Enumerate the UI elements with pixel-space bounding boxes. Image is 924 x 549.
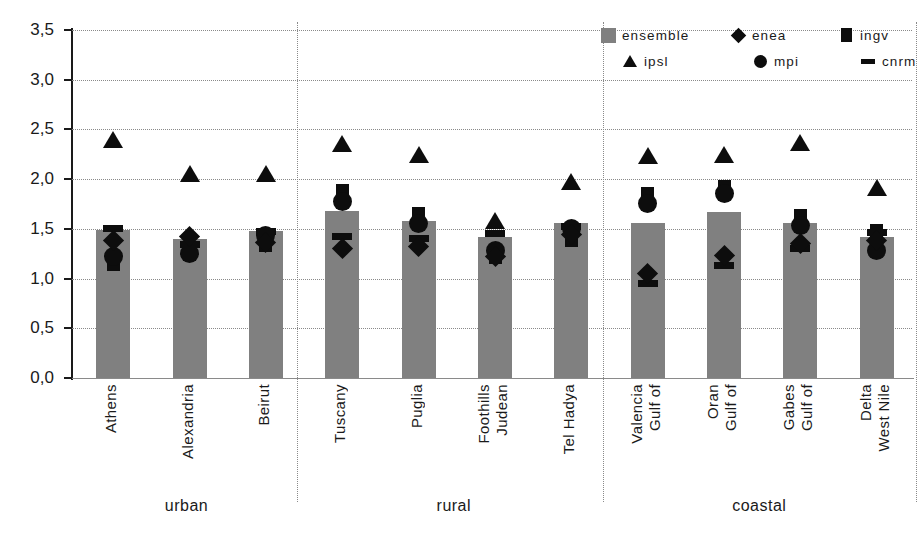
x-axis-label: Gulf ofGabes xyxy=(780,384,820,496)
mpi-circle-marker xyxy=(638,194,657,213)
ipsl-triangle-marker xyxy=(790,134,810,151)
ipsl-triangle-marker xyxy=(256,165,276,182)
ipsl-triangle-marker xyxy=(867,179,887,196)
ipsl-triangle-marker xyxy=(332,135,352,152)
x-axis-label-line: Gulf of xyxy=(798,384,815,431)
square-icon xyxy=(838,28,854,42)
gridline xyxy=(72,80,912,81)
x-axis-label-line: Beirut xyxy=(255,384,272,426)
mpi-circle-marker xyxy=(333,192,352,211)
x-axis-label: Puglia xyxy=(408,384,430,496)
legend-label-mpi: mpi xyxy=(774,54,799,69)
diamond-icon xyxy=(730,30,746,41)
ipsl-triangle-marker xyxy=(180,165,200,182)
legend-label-ensemble: ensemble xyxy=(622,28,689,43)
bar xyxy=(631,223,665,378)
x-axis-label-line: Tel Hadya xyxy=(560,384,577,454)
ipsl-triangle-marker xyxy=(103,131,123,148)
ipsl-triangle-marker xyxy=(714,146,734,163)
y-axis-label: 0,5 xyxy=(8,319,54,336)
legend-item-ensemble: ensemble xyxy=(600,28,730,43)
x-axis-label: Beirut xyxy=(255,384,277,496)
x-axis-label: Athens xyxy=(102,384,124,496)
legend-label-ipsl: ipsl xyxy=(644,54,669,69)
legend-row-1: ensemble enea ingv xyxy=(600,22,920,48)
group-separator xyxy=(297,22,298,502)
x-axis-label-line: Gabes xyxy=(780,384,797,430)
y-axis-label: 3,5 xyxy=(8,21,54,38)
group-separator xyxy=(916,22,917,502)
x-axis-label: JudeanFoothills xyxy=(475,384,515,496)
x-axis-label-line: Gulf of xyxy=(722,384,739,431)
y-axis-label: 2,5 xyxy=(8,120,54,137)
x-axis-label-line: Puglia xyxy=(408,384,425,428)
mpi-circle-marker xyxy=(715,184,734,203)
bar xyxy=(249,231,283,378)
bar-chart: 0,00,51,01,52,02,53,03,5 AthensAlexandri… xyxy=(0,0,924,549)
x-axis-label: Gulf ofOran xyxy=(704,384,744,496)
x-axis-label-line: Tuscany xyxy=(331,384,348,443)
legend-item-enea: enea xyxy=(730,28,838,43)
group-separator xyxy=(603,22,604,502)
circle-icon xyxy=(752,55,768,68)
x-axis-label: West NileDelta xyxy=(857,384,897,496)
x-axis-label-line: Oran xyxy=(704,384,721,419)
x-axis-label-line: West Nile xyxy=(875,384,892,452)
x-axis-label-line: Delta xyxy=(857,384,874,421)
y-axis-label: 3,0 xyxy=(8,71,54,88)
cnrm-dash-marker xyxy=(485,230,505,237)
plot-area xyxy=(72,30,912,378)
legend-label-ingv: ingv xyxy=(860,28,889,43)
x-axis-label-line: Judean xyxy=(493,384,510,436)
group-label: coastal xyxy=(607,497,912,515)
x-axis-label: Alexandria xyxy=(179,384,201,496)
ipsl-triangle-marker xyxy=(485,212,505,229)
legend-item-ingv: ingv xyxy=(838,28,889,43)
ipsl-triangle-marker xyxy=(561,173,581,190)
legend-label-cnrm: cnrm xyxy=(882,54,916,69)
x-axis-label-line: Foothills xyxy=(475,384,492,443)
ipsl-triangle-marker xyxy=(638,147,658,164)
x-axis-label-line: Valencia xyxy=(628,384,645,444)
legend-label-enea: enea xyxy=(752,28,786,43)
legend-item-ipsl: ipsl xyxy=(600,54,752,69)
x-axis-label-line: Alexandria xyxy=(179,384,196,459)
y-axis-label: 2,0 xyxy=(8,170,54,187)
x-axis-label: Tuscany xyxy=(331,384,353,496)
legend-item-cnrm: cnrm xyxy=(860,54,916,69)
x-axis-label: Tel Hadya xyxy=(560,384,582,496)
y-axis-label: 1,0 xyxy=(8,270,54,287)
x-axis-label-line: Athens xyxy=(102,384,119,433)
gridline xyxy=(72,129,912,130)
triangle-icon xyxy=(622,55,638,67)
y-axis-label: 1,5 xyxy=(8,220,54,237)
x-axis-label-line: Gulf of xyxy=(646,384,663,431)
dash-icon xyxy=(860,59,876,64)
ipsl-triangle-marker xyxy=(409,146,429,163)
group-label: urban xyxy=(72,497,301,515)
chart-legend: ensemble enea ingv ipsl mpi cnrm xyxy=(600,22,920,74)
y-axis-label: 0,0 xyxy=(8,369,54,386)
group-label: rural xyxy=(301,497,606,515)
bar xyxy=(707,212,741,378)
legend-row-2: ipsl mpi cnrm xyxy=(600,48,920,74)
x-axis-label: Gulf ofValencia xyxy=(628,384,668,496)
ensemble-swatch-icon xyxy=(600,28,616,43)
gridline xyxy=(72,378,912,379)
legend-item-mpi: mpi xyxy=(752,54,860,69)
